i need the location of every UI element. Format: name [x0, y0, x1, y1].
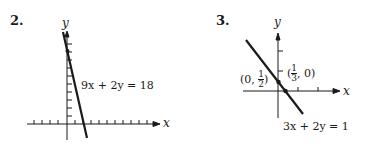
- x-ticks-2: [34, 120, 147, 124]
- problem-number-3: 3.: [216, 13, 230, 28]
- x-axis-label-3: x: [343, 84, 350, 98]
- graph-2-intercept-point: [66, 49, 70, 53]
- graph-3-y-intercept-point: [276, 80, 280, 84]
- point-label-y-intercept: (0, 12): [240, 70, 268, 89]
- y-axis-arrow-icon: [276, 33, 280, 40]
- point-label-suffix: ): [264, 73, 268, 86]
- y-axis-arrow-icon: [65, 31, 69, 37]
- y-axis-label-3: y: [274, 15, 281, 29]
- x-axis-arrow-icon: [153, 122, 160, 127]
- point-label-prefix: (0,: [240, 73, 258, 86]
- equation-label-3: 3x + 2y = 1: [283, 120, 349, 133]
- x-axis-arrow-icon: [333, 89, 340, 94]
- graph-3-x-intercept-point: [283, 89, 287, 93]
- point-label-suffix: , 0): [297, 67, 315, 80]
- graph-2-axes: [27, 31, 160, 140]
- point-label-x-intercept: (13, 0): [287, 64, 315, 83]
